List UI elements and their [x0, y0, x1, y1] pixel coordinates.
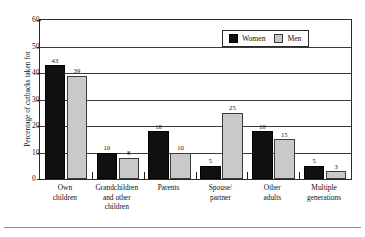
bar-value-label: 25 — [229, 104, 236, 111]
bar-women — [148, 131, 169, 179]
bar-value-label: 10 — [103, 144, 110, 151]
bar-women — [252, 131, 273, 179]
bar-men — [67, 76, 88, 179]
x-category-label: Multiple generations — [289, 183, 359, 202]
chart-legend: Women Men — [222, 30, 309, 47]
legend-item-women: Women — [229, 34, 265, 43]
footer-divider — [4, 227, 361, 228]
bar-value-label: 18 — [155, 123, 162, 130]
bar-value-label: 5 — [209, 157, 212, 164]
bar-value-label: 5 — [312, 157, 315, 164]
bar-value-label: 8 — [127, 149, 130, 156]
bar-men — [119, 158, 140, 179]
bar-women — [304, 166, 325, 179]
bar-chart-figure: Percentage of cutbacks taken for 4339108… — [0, 0, 365, 237]
bar-value-label: 10 — [177, 144, 184, 151]
legend-label-women: Women — [242, 34, 265, 43]
bar-value-label: 18 — [259, 123, 266, 130]
bar-value-label: 43 — [52, 57, 59, 64]
bar-men — [222, 113, 243, 179]
bar-value-label: 3 — [334, 163, 337, 170]
bar-women — [97, 153, 118, 180]
bar-women — [45, 65, 66, 179]
bar-men — [326, 171, 347, 179]
y-axis-title: Percentage of cutbacks taken for — [24, 19, 32, 179]
legend-swatch-women-icon — [229, 34, 238, 43]
bar-men — [170, 153, 191, 180]
y-tick-mark — [37, 179, 41, 180]
bar-men — [274, 139, 295, 179]
legend-item-men: Men — [274, 34, 301, 43]
bar-women — [200, 166, 221, 179]
legend-swatch-men-icon — [274, 34, 283, 43]
legend-label-men: Men — [287, 34, 301, 43]
bar-value-label: 39 — [74, 67, 81, 74]
bar-value-label: 15 — [281, 131, 288, 138]
